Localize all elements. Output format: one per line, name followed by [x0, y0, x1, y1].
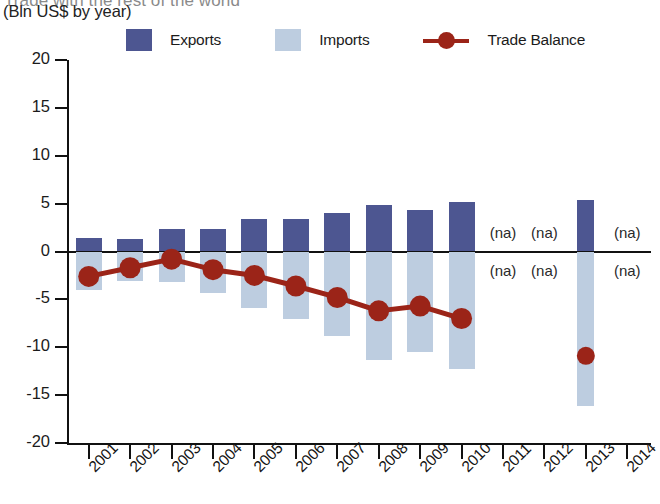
- bar-exports-2001: [76, 238, 102, 251]
- square-swatch-icon: [126, 29, 152, 51]
- y-axis-line: [67, 60, 69, 445]
- x-tick-label: 2011: [499, 440, 535, 476]
- zero-baseline: [67, 251, 651, 253]
- na-label-exports-2012: (na): [518, 224, 570, 241]
- y-tick-label: 20: [4, 49, 50, 68]
- legend-item-exports: Exports: [126, 29, 221, 51]
- bar-imports-2008: [366, 252, 392, 360]
- y-tick-mark: [55, 346, 67, 348]
- y-tick-label: -10: [4, 336, 50, 355]
- y-tick-label: -15: [4, 384, 50, 403]
- y-tick-mark: [55, 442, 67, 444]
- square-swatch-icon: [275, 29, 301, 51]
- bar-exports-2004: [200, 229, 226, 252]
- bar-imports-2004: [200, 252, 226, 293]
- na-label-imports-2014: (na): [601, 262, 653, 279]
- legend-label-exports: Exports: [170, 31, 221, 49]
- bar-exports-2003: [159, 229, 185, 252]
- legend-item-imports: Imports: [275, 29, 369, 51]
- bar-exports-2010: [449, 202, 475, 252]
- bar-exports-2002: [117, 239, 143, 251]
- chart-subtitle: (Bln US$ by year): [3, 2, 132, 21]
- trade-balance-line: [89, 259, 462, 318]
- chart-container: Trade with the rest of the world (Bln US…: [0, 0, 660, 504]
- y-tick-label: -5: [4, 288, 50, 307]
- bar-imports-2010: [449, 252, 475, 370]
- bar-exports-2009: [407, 210, 433, 251]
- bar-exports-2005: [241, 219, 267, 252]
- y-tick-mark: [55, 394, 67, 396]
- y-tick-mark: [55, 298, 67, 300]
- bar-imports-2006: [283, 252, 309, 319]
- na-label-imports-2012: (na): [518, 262, 570, 279]
- bar-imports-2009: [407, 252, 433, 353]
- y-tick-label: 5: [4, 193, 50, 212]
- y-tick-mark: [55, 107, 67, 109]
- y-tick-mark: [55, 251, 67, 253]
- bar-exports-2013: [577, 200, 594, 252]
- line-marker-key-icon: [423, 29, 469, 51]
- bar-imports-2013: [577, 252, 594, 406]
- bar-imports-2007: [324, 252, 350, 336]
- y-tick-mark: [55, 203, 67, 205]
- bar-exports-2006: [283, 219, 309, 252]
- chart-legend: Exports Imports Trade Balance: [126, 27, 585, 53]
- bar-exports-2007: [324, 213, 350, 251]
- y-tick-label: 15: [4, 97, 50, 116]
- legend-label-trade-balance: Trade Balance: [487, 31, 585, 49]
- legend-label-imports: Imports: [319, 31, 369, 49]
- y-tick-label: 10: [4, 145, 50, 164]
- bar-imports-2001: [76, 252, 102, 290]
- y-tick-label: -20: [4, 432, 50, 451]
- bar-imports-2005: [241, 252, 267, 308]
- legend-item-trade-balance: Trade Balance: [423, 29, 585, 51]
- bar-imports-2003: [159, 252, 185, 283]
- y-tick-mark: [55, 59, 67, 61]
- bar-exports-2008: [366, 205, 392, 252]
- y-tick-label: 0: [4, 241, 50, 260]
- na-label-exports-2014: (na): [601, 224, 653, 241]
- bar-imports-2002: [117, 252, 143, 282]
- y-tick-mark: [55, 155, 67, 157]
